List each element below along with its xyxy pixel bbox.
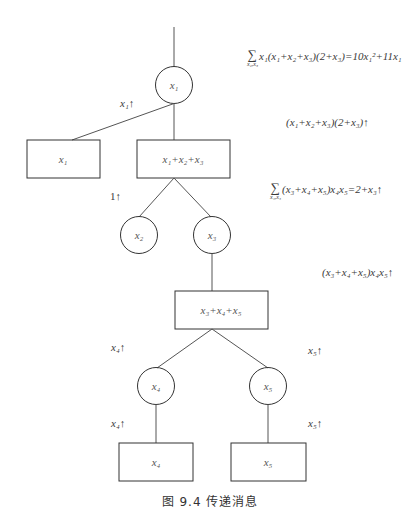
edge-f345-x5: [212, 329, 268, 368]
message-x5-up-upper: x₅↑: [308, 344, 322, 356]
formula-sum-x3: ∑x₄,x₅(x₃+x₄+x₅)x₄x₅=2+x₃↑: [270, 181, 382, 200]
formula-sum-x1: ∑x₂,x₃x₁(x₁+x₂+x₃)(2+x₃)=10x₁²+11x₁: [247, 48, 402, 67]
message-x4-up-upper: x₄↑: [111, 341, 125, 353]
sum-operator: ∑x₄,x₅: [270, 181, 281, 200]
formula-body: (x₃+x₄+x₅)x₄x₅=2+x₃↑: [282, 183, 382, 195]
formula-message-up-x3: (x₃+x₄+x₅)x₄x₅↑: [322, 266, 393, 278]
formula-message-up-x1: (x₁+x₂+x₃)(2+x₃)↑: [286, 116, 369, 128]
node-f-x3x4x5-label: x₃+x₄+x₅: [201, 304, 242, 316]
node-x3-label: x₃: [208, 229, 217, 241]
message-x5-up-lower: x₅↑: [308, 417, 322, 429]
message-x1-up: x₁↑: [120, 97, 134, 109]
node-x1-label: x₁: [170, 79, 179, 91]
node-f-x1x2x3-label: x₁+x₂+x₃: [163, 153, 204, 165]
node-x5-label: x₅: [264, 380, 273, 392]
edge-f-x2: [139, 178, 174, 217]
node-x4-label: x₄: [152, 380, 161, 392]
edge-f-x3: [174, 178, 211, 217]
sum-subscript: x₄,x₅: [270, 194, 281, 200]
formula-body: x₁(x₁+x₂+x₃)(2+x₃)=10x₁²+11x₁: [259, 50, 402, 62]
sum-operator: ∑x₂,x₃: [247, 48, 258, 67]
node-f-x1-label: x₁: [59, 153, 68, 165]
message-one-up: 1↑: [110, 190, 121, 202]
message-x4-up-lower: x₄↑: [111, 417, 125, 429]
node-f-x5-label: x₅: [264, 456, 273, 468]
sum-subscript: x₂,x₃: [247, 61, 258, 67]
node-x2-label: x₂: [135, 229, 144, 241]
figure-caption: 图 9.4 传递消息: [0, 492, 420, 509]
edge-f345-x4: [157, 329, 212, 368]
node-f-x4-label: x₄: [152, 456, 161, 468]
diagram-canvas: [0, 0, 420, 517]
